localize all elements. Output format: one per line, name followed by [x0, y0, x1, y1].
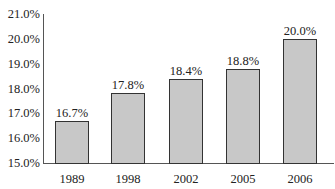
y-tick-label: 15.0% [0, 156, 40, 170]
bar-value-label: 20.0% [275, 24, 325, 38]
x-tick-label: 2006 [275, 172, 325, 186]
bar-2005 [226, 69, 260, 164]
bar-chart: 15.0%16.0%17.0%18.0%19.0%20.0%21.0% 16.7… [0, 0, 335, 189]
bar-value-label: 16.7% [47, 106, 97, 120]
bar-2002 [169, 79, 203, 164]
x-tick-label: 1998 [103, 172, 153, 186]
bar-value-label: 18.4% [161, 64, 211, 78]
y-tick-label: 16.0% [0, 131, 40, 145]
y-tick-label: 19.0% [0, 57, 40, 71]
x-tick-label: 2005 [218, 172, 268, 186]
x-tick-label: 2002 [161, 172, 211, 186]
y-axis [43, 14, 44, 164]
x-tick-label: 1989 [47, 172, 97, 186]
bar-1989 [55, 121, 89, 164]
bar-1998 [111, 93, 145, 164]
y-tick-label: 17.0% [0, 106, 40, 120]
y-tick-label: 21.0% [0, 7, 40, 21]
y-tick-label: 18.0% [0, 82, 40, 96]
y-tick-label: 20.0% [0, 32, 40, 46]
bar-2006 [283, 39, 317, 164]
bar-value-label: 17.8% [103, 78, 153, 92]
bar-value-label: 18.8% [218, 54, 268, 68]
